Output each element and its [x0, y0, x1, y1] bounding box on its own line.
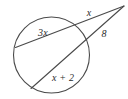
secant-line-lower [31, 6, 124, 89]
label-external-upper: x [87, 8, 92, 18]
label-chord-upper: 3x [38, 28, 48, 38]
label-chord-lower: x + 2 [52, 73, 74, 83]
geometry-diagram-svg [0, 0, 128, 99]
label-external-lower: 8 [101, 29, 106, 39]
secant-line-upper [16, 6, 125, 48]
geometry-figure: 3x x 8 x + 2 [0, 0, 128, 99]
